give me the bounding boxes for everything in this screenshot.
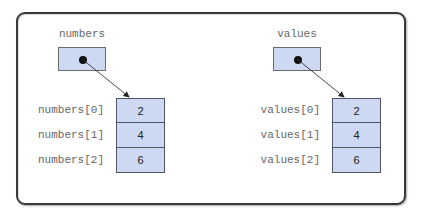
array-cell: 2 xyxy=(116,98,165,123)
array-cell: 2 xyxy=(332,98,381,123)
variable-label-numbers: numbers xyxy=(52,28,112,40)
reference-box-values xyxy=(273,47,321,71)
array-cell: 6 xyxy=(116,148,165,173)
array-cell: 4 xyxy=(332,123,381,148)
index-label: values[1] xyxy=(240,129,320,141)
array-values: 2 4 6 xyxy=(332,98,381,173)
variable-label-values: values xyxy=(267,28,327,40)
array-cell: 4 xyxy=(116,123,165,148)
array-numbers: 2 4 6 xyxy=(116,98,165,173)
index-label: numbers[0] xyxy=(24,104,104,116)
index-label: values[2] xyxy=(240,154,320,166)
array-cell: 6 xyxy=(332,148,381,173)
reference-box-numbers xyxy=(58,47,106,71)
index-label: values[0] xyxy=(240,104,320,116)
index-label: numbers[1] xyxy=(24,129,104,141)
index-label: numbers[2] xyxy=(24,154,104,166)
reference-dot-icon xyxy=(79,56,87,64)
reference-dot-icon xyxy=(294,56,302,64)
